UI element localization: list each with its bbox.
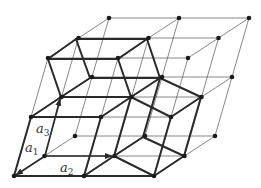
lattice-diagram: a1a2a3	[0, 0, 261, 188]
lattice-point	[107, 16, 112, 21]
lattice-point	[199, 95, 204, 100]
lattice-point	[160, 75, 165, 80]
lattice-point	[82, 174, 87, 179]
lattice-point	[112, 154, 117, 159]
lattice-point	[152, 174, 157, 179]
lattice-edge	[162, 18, 179, 77]
lattice-point	[90, 75, 95, 80]
cell-edge	[114, 156, 154, 176]
vector-a2-label: a2	[60, 160, 74, 177]
lattice-point	[116, 56, 121, 61]
lattice-point	[177, 16, 182, 21]
lattice-edge	[215, 77, 232, 136]
lattice-point	[46, 56, 51, 61]
lattice-point	[29, 115, 34, 120]
cell-edge	[61, 78, 90, 97]
lattice-point	[12, 174, 17, 179]
lattice-edge	[202, 38, 219, 97]
lattice-point	[76, 36, 81, 41]
lattice-point	[73, 134, 78, 139]
cell-edge	[160, 78, 201, 97]
vector-a1-label: a1	[25, 140, 39, 157]
lattice-point	[216, 36, 221, 41]
vector-labels: a1a2a3	[25, 121, 74, 177]
lattice-point	[99, 115, 104, 120]
lattice-point	[186, 56, 191, 61]
lattice-point	[169, 115, 174, 120]
lattice-point	[59, 95, 64, 100]
lattice-point	[143, 134, 148, 139]
lattice-point	[129, 95, 134, 100]
cell-edge	[48, 59, 61, 97]
lattice-edge	[92, 18, 109, 77]
vector-a1-arrow	[16, 156, 45, 175]
lattice-point	[213, 134, 218, 139]
cell-edge	[48, 39, 76, 59]
lattice-point	[230, 75, 235, 80]
vector-a3-label: a3	[36, 121, 50, 138]
lattice-point	[247, 16, 252, 21]
lattice-point	[146, 36, 151, 41]
cell-edge	[118, 39, 147, 59]
lattice-edge	[232, 18, 249, 77]
lattice-point	[182, 154, 187, 159]
cell-edge	[147, 39, 160, 78]
lattice-point	[42, 154, 47, 159]
